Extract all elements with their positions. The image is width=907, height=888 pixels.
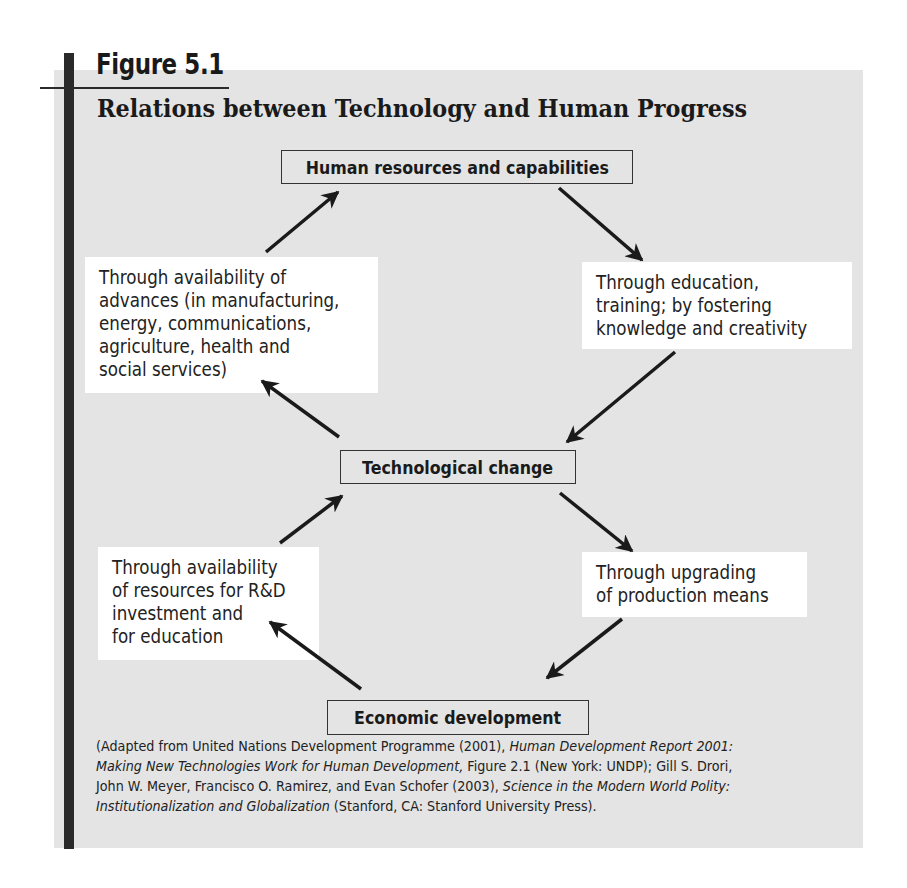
figure-source-note: (Adapted from United Nations Development… (96, 736, 856, 816)
source-text: John W. Meyer, Francisco O. Ramirez, and… (96, 778, 503, 794)
arrow-upper-right-note-to-tech (567, 352, 675, 442)
source-text: Figure 2.1 (New York: UNDP); Gill S. Dro… (463, 758, 732, 774)
source-text: (Stanford, CA: Stanford University Press… (330, 798, 597, 814)
source-line-2: Making New Technologies Work for Human D… (96, 756, 765, 776)
arrow-econ-to-lower-left-note (270, 622, 361, 689)
arrow-human-to-upper-right-note (559, 188, 642, 260)
source-line-3: John W. Meyer, Francisco O. Ramirez, and… (96, 776, 765, 796)
arrow-lower-left-note-to-tech (280, 496, 342, 543)
source-title-italic: Science in the Modern World Polity: (503, 778, 730, 794)
arrow-tech-to-upper-left-note (262, 381, 339, 437)
source-text: (Adapted from United Nations Development… (96, 738, 509, 754)
arrow-lower-right-note-to-econ (547, 619, 622, 678)
source-title-italic: Making New Technologies Work for Human D… (96, 758, 463, 774)
source-title-italic: Human Development Report 2001: (509, 738, 733, 754)
source-line-1: (Adapted from United Nations Development… (96, 736, 765, 756)
arrow-upper-left-note-to-human (266, 192, 338, 252)
arrow-tech-to-lower-right-note (560, 493, 632, 551)
source-line-4: Institutionalization and Globalization (… (96, 796, 765, 816)
source-title-italic: Institutionalization and Globalization (96, 798, 330, 814)
